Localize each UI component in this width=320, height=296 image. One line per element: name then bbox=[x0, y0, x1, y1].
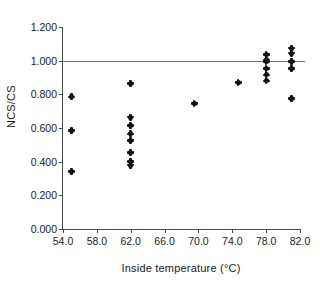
y-tick-label: 0.200 bbox=[31, 190, 57, 201]
data-point bbox=[128, 123, 133, 128]
data-point bbox=[289, 66, 294, 71]
y-tick-mark bbox=[59, 94, 63, 95]
x-tick-label: 82.0 bbox=[290, 236, 310, 247]
data-point bbox=[69, 128, 74, 133]
x-tick-mark bbox=[266, 229, 267, 233]
data-point bbox=[128, 131, 133, 136]
scatter-chart-figure: 0.0000.2000.4000.6000.8001.0001.200 54.0… bbox=[0, 0, 320, 296]
y-tick-mark bbox=[59, 162, 63, 163]
y-tick-mark bbox=[59, 195, 63, 196]
y-tick-label: 1.200 bbox=[31, 22, 57, 33]
data-point bbox=[128, 115, 133, 120]
y-tick-label: 0.800 bbox=[31, 89, 57, 100]
y-tick-mark bbox=[59, 27, 63, 28]
x-tick-label: 54.0 bbox=[53, 236, 73, 247]
data-point bbox=[289, 96, 294, 101]
data-point bbox=[128, 81, 133, 86]
data-point bbox=[128, 150, 133, 155]
x-tick-mark bbox=[232, 229, 233, 233]
data-point bbox=[69, 169, 74, 174]
y-axis-title: NCS/CS bbox=[5, 85, 17, 128]
x-tick-label: 70.0 bbox=[188, 236, 208, 247]
data-point bbox=[289, 59, 294, 64]
data-point bbox=[128, 138, 133, 143]
x-tick-label: 74.0 bbox=[222, 236, 242, 247]
plot-area: 0.0000.2000.4000.6000.8001.0001.200 54.0… bbox=[62, 27, 300, 230]
x-tick-mark bbox=[63, 229, 64, 233]
x-tick-mark bbox=[198, 229, 199, 233]
x-tick-label: 78.0 bbox=[256, 236, 276, 247]
y-tick-label: 1.000 bbox=[31, 55, 57, 66]
data-point bbox=[192, 101, 197, 106]
data-point bbox=[264, 66, 269, 71]
y-tick-mark bbox=[59, 128, 63, 129]
y-tick-label: 0.400 bbox=[31, 156, 57, 167]
data-point bbox=[264, 78, 269, 83]
data-point bbox=[128, 163, 133, 168]
data-point bbox=[289, 51, 294, 56]
y-tick-label: 0.600 bbox=[31, 123, 57, 134]
x-axis-title: Inside temperature (°C) bbox=[62, 262, 300, 274]
x-tick-mark bbox=[300, 229, 301, 233]
y-tick-label: 0.000 bbox=[31, 224, 57, 235]
data-point bbox=[69, 94, 74, 99]
x-tick-mark bbox=[97, 229, 98, 233]
x-tick-label: 66.0 bbox=[154, 236, 174, 247]
data-point bbox=[264, 59, 269, 64]
x-tick-label: 58.0 bbox=[87, 236, 107, 247]
data-point bbox=[236, 80, 241, 85]
x-tick-label: 62.0 bbox=[120, 236, 140, 247]
x-tick-mark bbox=[131, 229, 132, 233]
x-tick-mark bbox=[165, 229, 166, 233]
